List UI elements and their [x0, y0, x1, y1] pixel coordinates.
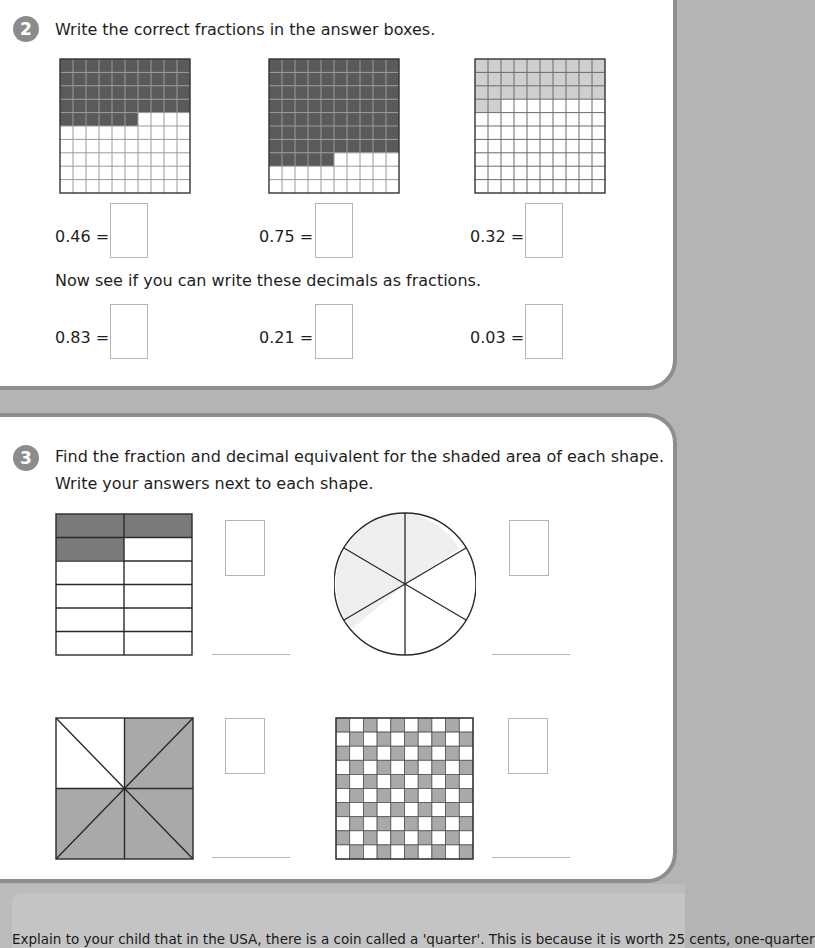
decimal-label-0-75: 0.75 = [259, 227, 313, 246]
decimal-label-0-03: 0.03 = [470, 328, 524, 347]
exercise-2-sub-instruction: Now see if you can write these decimals … [55, 271, 481, 290]
answer-box-fraction-square[interactable] [225, 718, 265, 774]
decimal-label-0-32: 0.32 = [470, 227, 524, 246]
question-number-badge-2: 2 [13, 16, 39, 42]
exercise-3-instruction-line1: Find the fraction and decimal equivalent… [55, 447, 664, 466]
answer-box-fraction-checkerboard[interactable] [508, 718, 548, 774]
rectangle-grid-shape [55, 513, 193, 656]
exercise-3-instruction-line2: Write your answers next to each shape. [55, 474, 373, 493]
square-triangles-shape [55, 717, 194, 860]
answer-box-fraction-rectangle[interactable] [225, 520, 265, 576]
answer-line-decimal-circle[interactable] [492, 654, 570, 655]
answer-box-0-21[interactable] [315, 304, 353, 359]
exercise-2-instruction: Write the correct fractions in the answe… [55, 20, 435, 39]
answer-box-0-46[interactable] [110, 203, 148, 258]
decimal-label-0-46: 0.46 = [55, 227, 109, 246]
answer-line-decimal-square[interactable] [212, 857, 290, 858]
answer-box-0-75[interactable] [315, 203, 353, 258]
answer-box-0-03[interactable] [525, 304, 563, 359]
parent-note-text: Explain to your child that in the USA, t… [12, 931, 815, 947]
answer-box-fraction-circle[interactable] [509, 520, 549, 576]
answer-box-0-32[interactable] [525, 203, 563, 258]
circle-shape [334, 511, 476, 657]
answer-line-decimal-checkerboard[interactable] [492, 857, 570, 858]
hundred-grid-0-32 [474, 58, 606, 194]
question-number-badge-3: 3 [13, 445, 39, 471]
answer-box-0-83[interactable] [110, 304, 148, 359]
hundred-grid-0-46 [59, 58, 191, 194]
decimal-label-0-83: 0.83 = [55, 328, 109, 347]
decimal-label-0-21: 0.21 = [259, 328, 313, 347]
answer-line-decimal-rectangle[interactable] [212, 654, 290, 655]
checkerboard-shape [335, 717, 474, 860]
hundred-grid-0-75 [268, 58, 400, 194]
